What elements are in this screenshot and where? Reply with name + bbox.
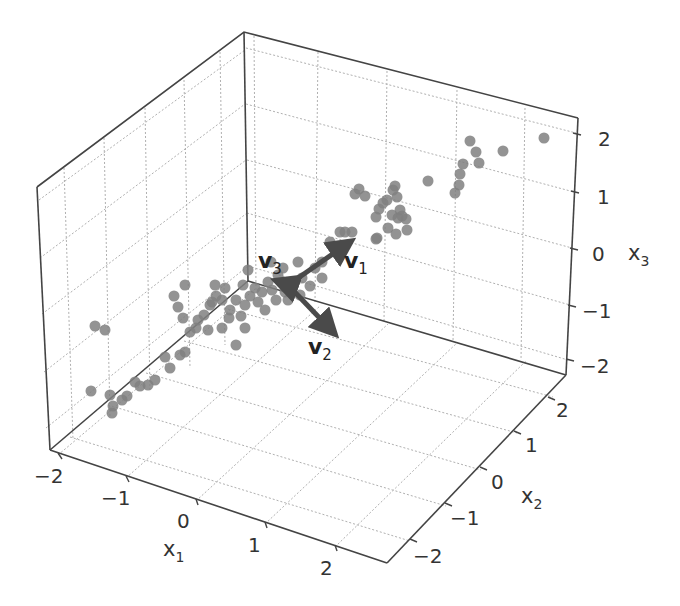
data-point xyxy=(185,327,196,338)
data-point xyxy=(455,169,466,180)
data-point xyxy=(107,408,118,419)
data-point xyxy=(180,280,191,291)
data-point xyxy=(465,136,476,147)
data-point xyxy=(205,300,216,311)
data-point xyxy=(210,280,221,291)
data-point xyxy=(382,195,393,206)
data-point xyxy=(100,325,111,336)
data-point xyxy=(220,283,231,294)
x1-tick-neg1: −1 xyxy=(101,486,130,510)
data-point xyxy=(471,147,482,158)
x3-tick-2: 2 xyxy=(598,127,611,151)
data-point xyxy=(240,323,251,334)
data-point xyxy=(211,291,222,302)
data-point xyxy=(217,323,228,334)
data-point xyxy=(458,159,469,170)
data-point xyxy=(347,227,358,238)
data-point xyxy=(293,257,304,268)
vector-v2-label: v2 xyxy=(308,334,332,364)
data-point xyxy=(117,395,128,406)
data-point xyxy=(423,176,434,187)
x3-tick-1: 1 xyxy=(597,185,610,209)
data-point xyxy=(160,352,171,363)
data-point xyxy=(539,133,550,144)
3d-scatter-plot: v3 v1 v2 2 1 0 −1 −2 x3 −2 −1 0 1 2 x1 −… xyxy=(0,0,680,606)
x2-tick-neg2: −2 xyxy=(413,544,442,568)
data-point xyxy=(388,185,399,196)
data-point xyxy=(371,234,382,245)
x2-axis-title: x2 xyxy=(521,484,542,512)
data-point xyxy=(243,265,254,276)
x3-tick-neg1: −1 xyxy=(582,299,611,323)
data-point xyxy=(350,189,361,200)
vector-v3-label: v3 xyxy=(258,248,282,278)
x1-tick-0: 0 xyxy=(177,509,190,533)
x1-tick-2: 2 xyxy=(320,556,333,580)
data-point xyxy=(360,191,371,202)
x3-axis: 2 1 0 −1 −2 x3 xyxy=(566,127,649,378)
data-point xyxy=(238,280,249,291)
data-point xyxy=(402,225,413,236)
data-point xyxy=(305,281,316,292)
data-point xyxy=(165,363,176,374)
data-point xyxy=(178,313,189,324)
data-point xyxy=(175,350,186,361)
data-point xyxy=(374,204,385,215)
data-point xyxy=(231,340,242,351)
data-point xyxy=(105,390,116,401)
back-pane-grid xyxy=(246,48,576,360)
vector-v3-arrow xyxy=(277,281,288,285)
x1-tick-1: 1 xyxy=(248,533,261,557)
data-point xyxy=(86,386,97,397)
x3-tick-0: 0 xyxy=(592,242,605,266)
data-point xyxy=(267,285,278,296)
data-point xyxy=(397,211,408,222)
x1-axis-title: x1 xyxy=(163,537,184,565)
data-point xyxy=(317,273,328,284)
x2-tick-0: 0 xyxy=(491,470,504,494)
data-points xyxy=(86,133,550,419)
data-point xyxy=(135,381,146,392)
data-point xyxy=(260,305,271,316)
data-point xyxy=(90,321,101,332)
x3-tick-neg2: −2 xyxy=(580,354,609,378)
data-point xyxy=(283,295,294,306)
vector-v1-label: v1 xyxy=(344,248,368,278)
data-point xyxy=(450,188,461,199)
data-point xyxy=(391,229,402,240)
data-point xyxy=(240,300,251,311)
data-point xyxy=(169,291,180,302)
data-point xyxy=(203,325,214,336)
data-point xyxy=(224,313,235,324)
x1-tick-neg2: −2 xyxy=(34,464,63,488)
x2-tick-neg1: −1 xyxy=(450,506,479,530)
x2-tick-1: 1 xyxy=(525,433,538,457)
data-point xyxy=(271,295,282,306)
data-point xyxy=(474,158,485,169)
data-point xyxy=(173,302,184,313)
data-point xyxy=(387,210,398,221)
x3-axis-title: x3 xyxy=(628,241,649,269)
data-point xyxy=(236,311,247,322)
data-point xyxy=(498,146,509,157)
vector-v2-arrow xyxy=(288,285,334,333)
x2-tick-2: 2 xyxy=(556,398,569,422)
data-point xyxy=(325,237,336,248)
x2-axis: −2 −1 0 1 2 x2 xyxy=(410,397,569,568)
